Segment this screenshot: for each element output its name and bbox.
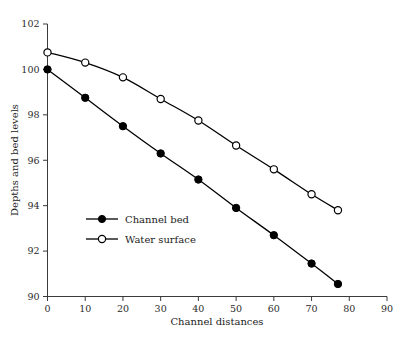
data-point [270,166,277,173]
y-ticks [43,24,48,297]
x-tick-label: 10 [79,303,91,314]
x-axis-title: Channel distances [170,316,263,327]
axis-group [48,24,388,297]
x-tick-label: 50 [230,303,242,314]
data-point [44,66,51,73]
y-tick-label: 96 [27,155,39,166]
x-tick-label: 60 [268,303,280,314]
x-tick-label: 90 [381,303,393,314]
y-tick-label: 100 [21,64,39,75]
x-tick-label: 30 [155,303,167,314]
data-point [232,204,239,211]
x-ticks [48,297,388,302]
data-point [82,94,89,101]
data-point [270,231,277,238]
legend-label-channel-bed: Channel bed [125,214,190,225]
x-tick-label: 80 [343,303,355,314]
y-tick-label: 90 [27,291,39,302]
data-point [82,59,89,66]
data-point [195,117,202,124]
data-point [157,150,164,157]
legend-marker-water-surface [98,235,105,242]
data-point [334,207,341,214]
line-chart: 9092949698100102 0102030405060708090 Cha… [0,0,418,337]
data-point [119,74,126,81]
chart-legend: Channel bed Water surface [86,214,196,245]
x-tick-label: 0 [44,303,50,314]
y-tick-label: 92 [27,245,39,256]
chart-figure: 9092949698100102 0102030405060708090 Cha… [0,0,418,337]
legend-label-water-surface: Water surface [125,234,196,245]
x-tick-label: 20 [117,303,129,314]
y-tick-labels: 9092949698100102 [21,18,39,302]
data-point [157,95,164,102]
series-path-0 [48,69,338,284]
legend-marker-channel-bed [98,215,105,222]
x-tick-labels: 0102030405060708090 [44,303,393,314]
data-point [308,260,315,267]
y-tick-label: 102 [21,18,39,29]
data-point [233,142,240,149]
series-channel-bed [44,66,342,288]
y-tick-label: 98 [27,109,39,120]
series-path-1 [48,52,338,210]
y-axis-title: Depths and bed levels [9,104,20,216]
data-point [195,176,202,183]
data-point [308,191,315,198]
series-water-surface [44,49,342,214]
x-tick-label: 40 [192,303,204,314]
data-point [119,122,126,129]
data-point [44,49,51,56]
x-tick-label: 70 [306,303,318,314]
data-point [334,280,341,287]
y-tick-label: 94 [27,200,39,211]
